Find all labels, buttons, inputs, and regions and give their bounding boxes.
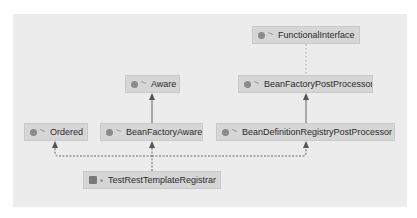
visibility-icon bbox=[254, 81, 259, 87]
visibility-icon bbox=[100, 179, 103, 182]
visibility-icon bbox=[232, 129, 237, 135]
interface-icon bbox=[30, 129, 37, 136]
node-label: BeanFactoryAware bbox=[126, 127, 202, 137]
node-bean-factory-aware[interactable]: BeanFactoryAware bbox=[100, 123, 203, 141]
node-label: Ordered bbox=[50, 127, 83, 137]
visibility-icon bbox=[40, 129, 45, 135]
node-label: BeanDefinitionRegistryPostProcessor bbox=[242, 127, 392, 137]
interface-icon bbox=[244, 81, 251, 88]
node-test-rest-template-registrar[interactable]: TestRestTemplateRegistrar bbox=[83, 171, 221, 189]
node-bean-factory-post-processor[interactable]: BeanFactoryPostProcessor bbox=[238, 75, 373, 93]
interface-icon bbox=[131, 81, 138, 88]
node-label: BeanFactoryPostProcessor bbox=[264, 79, 373, 89]
node-functional-interface[interactable]: FunctionalInterface bbox=[252, 26, 360, 44]
visibility-icon bbox=[116, 129, 121, 135]
node-label: Aware bbox=[151, 79, 176, 89]
visibility-icon bbox=[268, 32, 273, 38]
annotation-icon bbox=[258, 32, 265, 39]
node-aware[interactable]: Aware bbox=[125, 75, 180, 93]
node-ordered[interactable]: Ordered bbox=[24, 123, 88, 141]
node-bean-definition-registry-post-processor[interactable]: BeanDefinitionRegistryPostProcessor bbox=[216, 123, 395, 141]
interface-icon bbox=[222, 129, 229, 136]
edge-registrar-implements bbox=[55, 144, 306, 171]
node-label: FunctionalInterface bbox=[278, 30, 355, 40]
class-icon bbox=[89, 176, 97, 184]
node-label: TestRestTemplateRegistrar bbox=[108, 175, 216, 185]
interface-icon bbox=[106, 129, 113, 136]
visibility-icon bbox=[141, 81, 146, 87]
